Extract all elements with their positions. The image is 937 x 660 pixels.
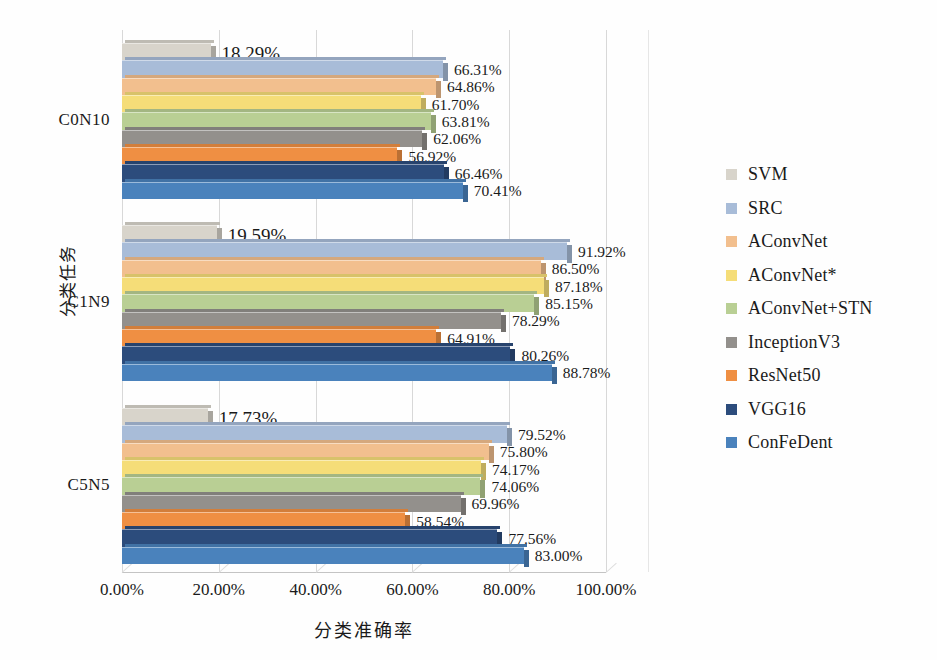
bar-value-label: 74.17% (492, 462, 540, 478)
legend-swatch-icon (726, 236, 737, 247)
legend-item-resnet50[interactable]: ResNet50 (726, 359, 931, 393)
bar-value-label: 85.15% (545, 296, 593, 312)
legend-label: AConvNet+STN (748, 298, 873, 319)
bar-value-label: 78.29% (512, 313, 560, 329)
bar-confedent-c5n5[interactable] (122, 547, 524, 564)
legend-label: ResNet50 (748, 365, 821, 386)
bar-row: 88.78% (122, 364, 606, 381)
bar-top-cap (125, 526, 500, 529)
legend-item-aconvnet[interactable]: AConvNet (726, 225, 931, 259)
back-wall-line (648, 30, 649, 572)
legend-label: VGG16 (748, 399, 806, 420)
legend-label: SRC (748, 198, 783, 219)
bar-top-cap (125, 422, 510, 425)
bar-row: 70.41% (122, 182, 606, 199)
bar-top-cap (125, 222, 220, 225)
bar-top-cap (125, 239, 570, 242)
legend-item-aconvnet-[interactable]: AConvNet* (726, 259, 931, 293)
bar-side-cap (524, 550, 529, 567)
bar-top-cap (125, 161, 447, 164)
x-tick-label: 0.00% (72, 580, 172, 600)
legend-item-inceptionv3[interactable]: InceptionV3 (726, 326, 931, 360)
bar-value-label: 83.00% (535, 548, 583, 564)
legend-item-vgg16[interactable]: VGG16 (726, 393, 931, 427)
legend-swatch-icon (726, 303, 737, 314)
x-tick-label: 60.00% (362, 580, 462, 600)
plot-area: 18.29%66.31%64.86%61.70%63.81%62.06%56.9… (122, 30, 606, 572)
bar-value-label: 62.06% (433, 131, 481, 147)
bar-confedent-c0n10[interactable] (122, 182, 463, 199)
gridline-depth-tick (606, 563, 617, 573)
bar-confedent-c1n9[interactable] (122, 364, 552, 381)
legend-swatch-icon (726, 404, 737, 415)
bar-top-cap (125, 57, 446, 60)
bar-top-cap (125, 274, 547, 277)
x-tick-label: 40.00% (266, 580, 366, 600)
legend-swatch-icon (726, 437, 737, 448)
legend-label: ConFeDent (748, 432, 833, 453)
legend-swatch-icon (726, 270, 737, 281)
y-tick-label-c0n10: C0N10 (10, 110, 110, 130)
y-axis-title: 分类任务 (54, 221, 79, 341)
bar-top-cap (125, 440, 492, 443)
legend-item-confedent[interactable]: ConFeDent (726, 426, 931, 460)
bar-top-cap (125, 40, 214, 43)
bar-top-cap (125, 75, 439, 78)
bar-top-cap (125, 457, 484, 460)
legend-item-aconvnet-stn[interactable]: AConvNet+STN (726, 292, 931, 326)
bar-top-cap (125, 343, 513, 346)
bar-side-cap (552, 367, 557, 384)
bar-top-cap (125, 144, 400, 147)
bar-value-label: 64.86% (447, 79, 495, 95)
y-tick-label-c1n9: C1N9 (10, 292, 110, 312)
legend-swatch-icon (726, 169, 737, 180)
bar-top-cap (125, 92, 424, 95)
bar-top-cap (125, 109, 434, 112)
bar-value-label: 61.70% (432, 97, 480, 113)
bar-top-cap (125, 127, 425, 130)
bar-group-c0n10: 18.29%66.31%64.86%61.70%63.81%62.06%56.9… (122, 43, 606, 199)
bar-value-label: 87.18% (555, 279, 603, 295)
bar-row: 83.00% (122, 547, 606, 564)
bar-face (122, 182, 463, 199)
x-tick-label: 80.00% (459, 580, 559, 600)
legend-label: InceptionV3 (748, 332, 840, 353)
x-tick-label: 20.00% (169, 580, 269, 600)
x-axis-title: 分类准确率 (122, 616, 606, 642)
legend-label: AConvNet* (748, 265, 837, 286)
bar-top-cap (125, 492, 464, 495)
bar-top-cap (125, 291, 537, 294)
bar-top-cap (125, 179, 466, 182)
y-tick-label-c5n5: C5N5 (10, 475, 110, 495)
bar-value-label: 86.50% (552, 261, 600, 277)
bar-top-cap (125, 544, 527, 547)
chart-legend: SVMSRCAConvNetAConvNet*AConvNet+STNIncep… (726, 158, 931, 460)
bar-face (122, 364, 552, 381)
bar-value-label: 63.81% (442, 114, 490, 130)
bar-value-label: 75.80% (500, 444, 548, 460)
bar-top-cap (125, 257, 544, 260)
bar-value-label: 91.92% (578, 244, 626, 260)
legend-item-svm[interactable]: SVM (726, 158, 931, 192)
legend-swatch-icon (726, 337, 737, 348)
bar-top-cap (125, 405, 211, 408)
bar-side-cap (463, 185, 468, 202)
bar-value-label: 69.96% (472, 496, 520, 512)
bar-value-label: 66.31% (454, 62, 502, 78)
bar-top-cap (125, 326, 439, 329)
bar-value-label: 88.78% (563, 365, 611, 381)
x-tick-label: 100.00% (556, 580, 656, 600)
bar-top-cap (125, 361, 555, 364)
gridline-10000 (606, 30, 607, 572)
bar-value-label: 70.41% (474, 183, 522, 199)
bar-face (122, 547, 524, 564)
bar-value-label: 74.06% (491, 479, 539, 495)
bar-top-cap (125, 474, 483, 477)
bar-group-c5n5: 17.73%79.52%75.80%74.17%74.06%69.96%58.5… (122, 408, 606, 564)
legend-swatch-icon (726, 203, 737, 214)
legend-label: AConvNet (748, 231, 828, 252)
chart-page: 分类任务 分类准确率 18.29%66.31%64.86%61.70%63.81… (0, 0, 937, 660)
x-axis-line (122, 572, 606, 573)
legend-item-src[interactable]: SRC (726, 192, 931, 226)
legend-swatch-icon (726, 370, 737, 381)
